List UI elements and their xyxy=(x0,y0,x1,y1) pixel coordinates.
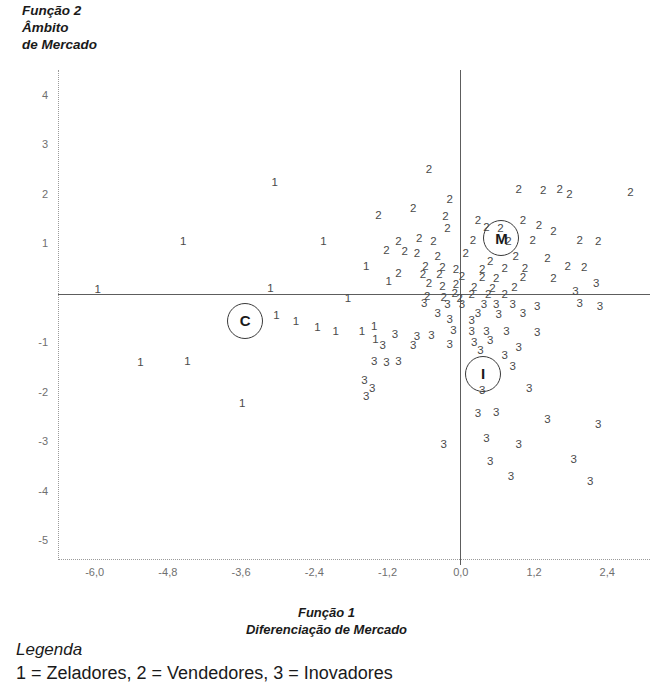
data-point: 3 xyxy=(439,439,449,450)
data-point: 3 xyxy=(575,298,585,309)
data-point: 1 xyxy=(135,357,145,368)
x-axis-title: Função 1 Diferenciação de Mercado xyxy=(0,604,653,638)
data-point: 1 xyxy=(331,326,341,337)
data-point: 1 xyxy=(265,283,275,294)
x-tick-label: -1,2 xyxy=(365,566,411,578)
data-point: 3 xyxy=(361,391,371,402)
data-point: 1 xyxy=(291,316,301,327)
data-point: 2 xyxy=(500,263,510,274)
data-point: 3 xyxy=(518,308,528,319)
data-point: 2 xyxy=(538,185,548,196)
data-point: 2 xyxy=(441,211,451,222)
data-point: 3 xyxy=(445,314,455,325)
data-point: 2 xyxy=(434,269,444,280)
data-point: 3 xyxy=(394,356,404,367)
data-point: 1 xyxy=(270,177,280,188)
data-point: 2 xyxy=(563,261,573,272)
data-point: 3 xyxy=(381,357,391,368)
data-point: 1 xyxy=(318,236,328,247)
data-point: 2 xyxy=(408,203,418,214)
data-point: 1 xyxy=(361,261,371,272)
y-tick-label: -2 xyxy=(18,386,48,398)
data-point: 2 xyxy=(511,251,521,262)
plot-area: 1111111111111111112222222222222222222222… xyxy=(58,70,650,560)
data-point: 3 xyxy=(591,278,601,289)
y-axis-title: Função 2 Âmbito de Mercado xyxy=(22,2,97,53)
data-point: 2 xyxy=(400,246,410,257)
data-point: 3 xyxy=(532,327,542,338)
data-point: 3 xyxy=(514,439,524,450)
data-point: 3 xyxy=(390,329,400,340)
data-point: 1 xyxy=(357,326,367,337)
data-point: 2 xyxy=(514,184,524,195)
x-axis-origin-tick xyxy=(460,555,461,565)
y-tick-label: -1 xyxy=(18,336,48,348)
y-tick-label: 3 xyxy=(18,138,48,150)
data-point: 2 xyxy=(424,164,434,175)
legend-title: Legenda xyxy=(16,640,82,660)
data-point: 3 xyxy=(473,408,483,419)
x-tick-label: -2,4 xyxy=(291,566,337,578)
data-point: 3 xyxy=(485,456,495,467)
x-tick-label: 2,4 xyxy=(584,566,630,578)
data-point: 3 xyxy=(494,309,504,320)
data-point: 3 xyxy=(448,325,458,336)
x-tick-label: -6,0 xyxy=(72,566,118,578)
x-tick-label: -3,6 xyxy=(218,566,264,578)
data-point: 2 xyxy=(510,282,520,293)
data-point: 2 xyxy=(575,235,585,246)
data-point: 3 xyxy=(502,326,512,337)
data-point: 3 xyxy=(500,350,510,361)
data-point: 1 xyxy=(182,356,192,367)
data-point: 3 xyxy=(485,335,495,346)
cluster-marker-c: C xyxy=(227,303,263,339)
x-tick-label: 1,2 xyxy=(511,566,557,578)
data-point: 2 xyxy=(549,273,559,284)
data-point: 1 xyxy=(237,398,247,409)
data-point: 2 xyxy=(593,236,603,247)
data-point: 1 xyxy=(384,276,394,287)
cluster-marker-i: I xyxy=(465,356,501,392)
y-tick-label: -5 xyxy=(18,534,48,546)
data-point: 1 xyxy=(178,236,188,247)
data-point: 2 xyxy=(381,245,391,256)
data-point: 1 xyxy=(271,310,281,321)
data-point: 1 xyxy=(369,321,379,332)
data-point: 3 xyxy=(475,345,485,356)
data-point: 3 xyxy=(506,471,516,482)
y-tick-label: 4 xyxy=(18,89,48,101)
data-point: 2 xyxy=(542,253,552,264)
data-point: 3 xyxy=(427,330,437,341)
data-point: 3 xyxy=(442,299,452,310)
data-point: 3 xyxy=(491,407,501,418)
data-point: 2 xyxy=(534,220,544,231)
x-tick-label: -4,8 xyxy=(145,566,191,578)
data-point: 3 xyxy=(481,433,491,444)
data-point: 2 xyxy=(414,233,424,244)
data-point: 3 xyxy=(408,340,418,351)
data-point: 3 xyxy=(457,299,467,310)
data-point: 2 xyxy=(518,215,528,226)
data-point: 2 xyxy=(528,235,538,246)
data-point: 2 xyxy=(461,248,471,259)
y-tick-label: -4 xyxy=(18,485,48,497)
y-axis-line xyxy=(460,70,461,560)
data-point: 1 xyxy=(93,284,103,295)
data-point: 3 xyxy=(571,286,581,297)
data-point: 2 xyxy=(442,223,452,234)
data-point: 3 xyxy=(378,340,388,351)
data-point: 2 xyxy=(467,289,477,300)
data-point: 2 xyxy=(424,278,434,289)
data-point: 2 xyxy=(428,236,438,247)
data-point: 3 xyxy=(433,308,443,319)
data-point: 3 xyxy=(508,299,518,310)
data-point: 3 xyxy=(595,301,605,312)
data-point: 3 xyxy=(569,454,579,465)
data-point: 3 xyxy=(593,419,603,430)
data-point: 2 xyxy=(412,248,422,259)
data-point: 1 xyxy=(343,293,353,304)
plot-frame-bottom-border xyxy=(58,559,650,560)
data-point: 2 xyxy=(549,226,559,237)
data-point: 3 xyxy=(508,361,518,372)
data-point: 3 xyxy=(542,414,552,425)
